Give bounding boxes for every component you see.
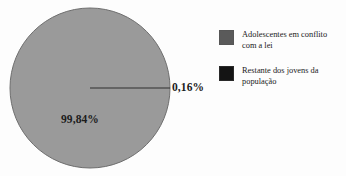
- legend-item-adolescentes: Adolescentes em conflito com a lei: [219, 29, 346, 52]
- legend-swatch-adolescentes-icon: [219, 30, 234, 45]
- pie-plot-area: 0,16% 99,84%: [0, 0, 210, 176]
- chart-legend: Adolescentes em conflito com a lei Resta…: [219, 29, 346, 100]
- pie-label-major: 99,84%: [61, 113, 99, 125]
- legend-swatch-restante-icon: [219, 66, 234, 81]
- legend-label-adolescentes: Adolescentes em conflito com a lei: [242, 29, 338, 52]
- pie-label-minor: 0,16%: [172, 81, 204, 93]
- legend-label-restante: Restante dos jovens da população: [242, 65, 338, 88]
- pie-chart-figure: 0,16% 99,84% Adolescentes em conflito co…: [0, 0, 346, 176]
- legend-item-restante: Restante dos jovens da população: [219, 65, 346, 88]
